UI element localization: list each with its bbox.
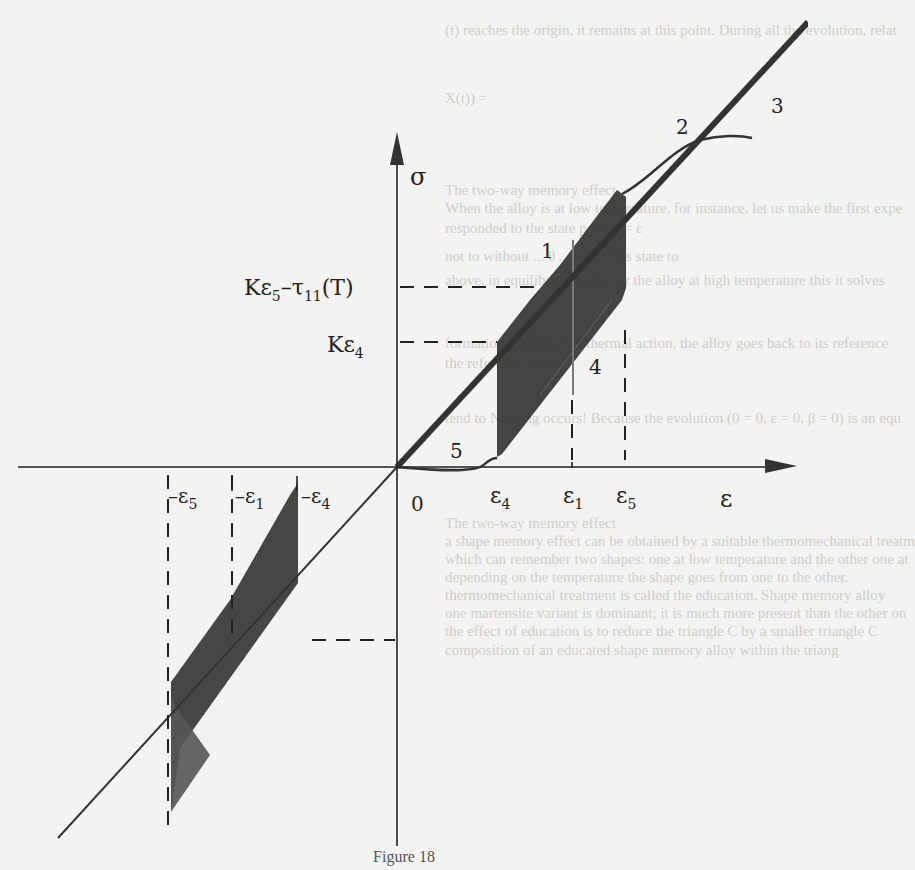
shaded-region-positive: [497, 190, 626, 457]
path-label-1: 1: [541, 239, 554, 263]
x-tick-eps4: ε4: [490, 483, 510, 512]
path-label-5: 5: [450, 439, 463, 463]
epsilon-axis: [18, 459, 797, 473]
sigma-axis: [390, 132, 404, 846]
path-curve-2: [622, 136, 752, 194]
y-tick-k-eps5-tau11: Kε5–τ11(T): [244, 275, 354, 304]
x-tick-eps5: ε5: [616, 483, 636, 512]
elastic-line: [58, 22, 808, 838]
x-tick-neg-eps5: –ε5: [168, 484, 197, 512]
x-tick-eps1: ε1: [563, 483, 583, 512]
path-label-4: 4: [589, 355, 602, 379]
path-label-3: 3: [771, 94, 784, 118]
figure-caption: Figure 18: [0, 848, 808, 866]
y-tick-k-eps4: Kε4: [327, 332, 364, 361]
shaded-region-negative: [171, 483, 298, 812]
epsilon-label: ε: [720, 485, 732, 513]
x-tick-neg-eps1: –ε1: [235, 484, 264, 512]
sigma-label: σ: [410, 163, 426, 191]
x-tick-neg-eps4: –ε4: [301, 484, 330, 512]
origin-label: 0: [411, 492, 424, 516]
path-label-2: 2: [676, 115, 689, 139]
path-curve-5: [397, 458, 497, 470]
